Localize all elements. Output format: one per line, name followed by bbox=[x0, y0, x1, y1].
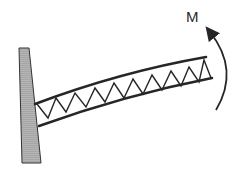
cantilever-truss bbox=[35, 57, 212, 126]
truss-bottom-chord bbox=[39, 78, 212, 126]
cantilever-truss-diagram bbox=[0, 0, 248, 169]
truss-top-chord bbox=[35, 57, 206, 104]
moment-arrow bbox=[210, 32, 227, 110]
moment-label: M bbox=[186, 8, 199, 25]
truss-web-members bbox=[37, 60, 211, 118]
